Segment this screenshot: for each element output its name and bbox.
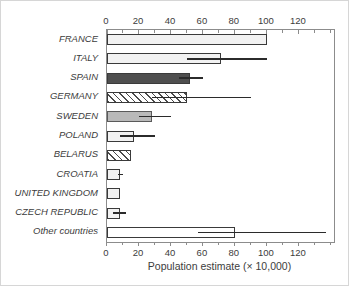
error-bar: [187, 58, 267, 60]
axis-tick: [218, 242, 219, 245]
category-label: CROATIA: [56, 168, 98, 180]
error-bar: [120, 135, 155, 137]
error-bar: [118, 174, 123, 176]
axis-tick: [282, 30, 283, 33]
axis-tick: [314, 242, 315, 245]
category-label: CZECH REPUBLIC: [15, 206, 98, 218]
axis-tick: [330, 30, 331, 33]
x-tick-label-bottom: 20: [133, 247, 144, 258]
x-axis-title: Population estimate (× 10,000): [148, 260, 291, 272]
x-tick-label-top: 40: [165, 15, 176, 26]
x-tick-label-bottom: 60: [197, 247, 208, 258]
x-tick-label-bottom: 120: [290, 247, 306, 258]
axis-tick: [282, 242, 283, 245]
axis-tick: [154, 242, 155, 245]
x-tick-label-top: 20: [133, 15, 144, 26]
axis-tick: [170, 242, 171, 246]
category-label: POLAND: [59, 129, 98, 141]
x-tick-label-top: 80: [229, 15, 240, 26]
bar-france: [107, 34, 267, 45]
category-label: UNITED KINGDOM: [15, 187, 98, 199]
axis-tick: [202, 242, 203, 246]
x-tick-label-top: 100: [258, 15, 274, 26]
error-bar: [179, 77, 203, 79]
bar-belarus: [107, 150, 131, 161]
axis-tick: [234, 242, 235, 246]
error-bar: [152, 97, 251, 99]
x-tick-label-top: 0: [103, 15, 108, 26]
population-bar-chart: Population estimate (× 10,000) 002020404…: [0, 0, 349, 286]
axis-tick: [106, 242, 107, 246]
axis-tick: [298, 30, 299, 34]
x-tick-label-bottom: 100: [258, 247, 274, 258]
axis-tick: [186, 242, 187, 245]
plot-area: [106, 29, 335, 243]
axis-tick: [186, 30, 187, 33]
axis-tick: [250, 30, 251, 33]
axis-tick: [138, 242, 139, 246]
category-label: SPAIN: [70, 71, 98, 83]
x-tick-label-bottom: 40: [165, 247, 176, 258]
category-label: ITALY: [73, 52, 98, 64]
axis-tick: [330, 242, 331, 245]
category-label: GERMANY: [50, 90, 98, 102]
axis-tick: [154, 30, 155, 33]
category-label: FRANCE: [59, 33, 98, 45]
error-bar: [139, 116, 171, 118]
bar-united-kingdom: [107, 188, 120, 199]
category-label: BELARUS: [54, 148, 98, 160]
axis-tick: [298, 242, 299, 246]
x-tick-label-bottom: 0: [103, 247, 108, 258]
x-tick-label-top: 120: [290, 15, 306, 26]
x-tick-label-bottom: 80: [229, 247, 240, 258]
category-label: SWEDEN: [56, 110, 98, 122]
bar-spain: [107, 73, 190, 84]
axis-tick: [122, 30, 123, 33]
error-bar: [113, 212, 126, 214]
axis-tick: [122, 242, 123, 245]
axis-tick: [218, 30, 219, 33]
x-tick-label-top: 60: [197, 15, 208, 26]
axis-tick: [314, 30, 315, 33]
error-bar: [198, 232, 326, 234]
axis-tick: [250, 242, 251, 245]
category-label: Other countries: [33, 225, 98, 237]
axis-tick: [266, 242, 267, 246]
